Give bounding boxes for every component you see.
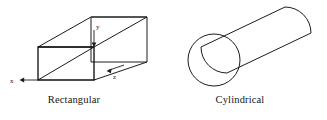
axis-x-arrowhead [20, 78, 25, 83]
cylinder-near-face-circle [188, 34, 240, 86]
box-face-diagonal [38, 47, 94, 80]
figure-root: y x z Rectangular Cylindrical [0, 0, 327, 120]
rectangular-box-group: y x z [10, 17, 147, 85]
axis-x-label: x [10, 77, 14, 85]
box-bottom-receding-edge [94, 62, 147, 80]
axis-z-arrowhead [107, 69, 112, 74]
cylinder-group [188, 7, 311, 86]
caption-rectangular: Rectangular [0, 94, 148, 105]
axis-y-label: y [96, 23, 100, 31]
axis-x: x [10, 77, 38, 85]
cylinder-body [201, 7, 311, 73]
axis-y: y [92, 23, 100, 47]
axis-z: z [107, 65, 125, 81]
caption-cylindrical: Cylindrical [160, 94, 320, 105]
axis-z-label: z [113, 73, 116, 81]
